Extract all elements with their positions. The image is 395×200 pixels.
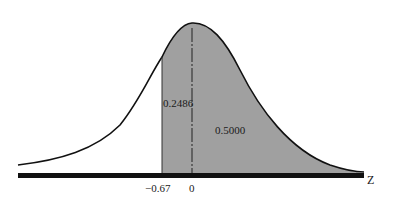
area-label-right: 0.5000 bbox=[215, 125, 245, 136]
z-axis bbox=[18, 173, 364, 178]
tick-label-minus-067: −0.67 bbox=[145, 183, 170, 194]
tick-label-zero: 0 bbox=[189, 183, 195, 194]
area-label-left: 0.2486 bbox=[163, 98, 193, 109]
axis-label-z: Z bbox=[367, 174, 374, 186]
normal-curve-diagram bbox=[0, 0, 395, 200]
